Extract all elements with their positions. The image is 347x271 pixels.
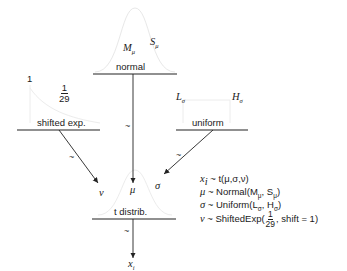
edge-tilde-exp: ~ [69,152,74,162]
normal-label: normal [116,62,145,72]
t-input-nu: ν [99,188,104,199]
edge-tilde-t: ~ [124,226,129,236]
normal-param-S: Sμ [150,37,159,50]
arrow-exp-to-nu [59,130,98,183]
uniform-param-H: Hσ [232,92,243,105]
edge-tilde-uniform: ~ [176,150,181,160]
shifted-exp-label: shifted exp. [37,118,86,128]
shifted-exp-rate-fraction: 1 29 [59,83,70,104]
diagram-canvas [0,0,347,271]
normal-param-M: Mμ [123,43,135,56]
equation-mu: μ ~ Normal(Mμ, Sμ) [200,187,280,199]
t-distrib-label: t distrib. [114,207,147,217]
output-x: xi [128,259,134,271]
arrow-uniform-to-sigma [164,130,213,174]
uniform-label: uniform [192,118,224,128]
edge-tilde-normal: ~ [125,121,130,131]
t-input-sigma: σ [155,181,160,192]
equation-nu-fraction: 129 [266,210,275,229]
equation-nu: ν ~ ShiftedExp(129, shift = 1) [200,210,318,229]
t-input-mu: μ [130,185,135,196]
uniform-param-L: Lσ [176,92,185,105]
shifted-exp-param-shift: 1 [27,74,32,84]
